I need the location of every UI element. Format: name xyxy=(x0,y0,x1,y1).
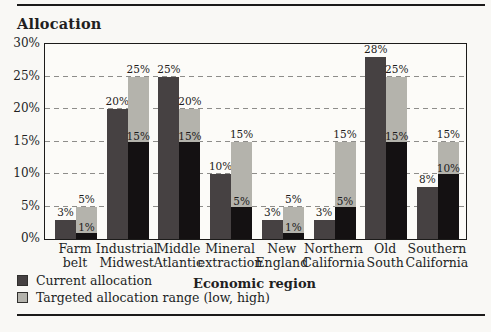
bar-group: 3%5%1% xyxy=(55,44,97,239)
x-tick-label-text: Mineralextraction xyxy=(198,242,263,269)
y-tick-label-0: 0% xyxy=(0,231,40,245)
x-tick-label-text: Farmbelt xyxy=(58,242,91,269)
y-tick-label-30: 30% xyxy=(0,36,40,50)
x-tick-label-text: NorthernCalifornia xyxy=(302,242,365,269)
bar-value-label-low: 15% xyxy=(178,130,201,142)
legend-item-target: Targeted allocation range (low, high) xyxy=(17,291,270,304)
bar-current: 8% xyxy=(417,187,438,239)
x-tick-label-text: SouthernCalifornia xyxy=(406,242,469,269)
current-allocation-swatch xyxy=(17,275,28,286)
x-tick-label-text: IndustrialMidwest xyxy=(96,242,158,269)
bar-target-range: 25%15% xyxy=(128,77,149,240)
bar-target-range: 5%1% xyxy=(76,207,97,239)
y-tick-label-15: 15% xyxy=(0,134,40,148)
bar-value-label-low: 5% xyxy=(337,195,354,207)
bar-value-label-high: 25% xyxy=(385,63,408,75)
bar-value-label-low: 5% xyxy=(233,195,250,207)
bar-current: 3% xyxy=(55,220,76,240)
bar-target-range: 20%15% xyxy=(179,109,200,239)
legend-label-target: Targeted allocation range (low, high) xyxy=(36,291,270,304)
bar-group: 3%15%5% xyxy=(314,44,356,239)
legend-label-current: Current allocation xyxy=(36,274,152,287)
bar-value-label-low: 15% xyxy=(127,130,150,142)
bar-value-label-high: 15% xyxy=(437,128,460,140)
x-tick-label: SouthernCalifornia xyxy=(416,242,458,270)
bar-target-range: 15%5% xyxy=(335,142,356,240)
bar-value-label-high: 5% xyxy=(78,193,95,205)
bottom-rule xyxy=(17,314,485,316)
x-tick-label: IndustrialMidwest xyxy=(106,242,148,270)
x-tick-label-text: NewEngland xyxy=(255,242,308,269)
bar-current: 25% xyxy=(158,77,179,240)
bar-value-label-high: 20% xyxy=(178,95,201,107)
y-tick-label-10: 10% xyxy=(0,166,40,180)
bar-group: 3%5%1% xyxy=(262,44,304,239)
legend: Current allocation Targeted allocation r… xyxy=(17,274,270,304)
y-tick-label-20: 20% xyxy=(0,101,40,115)
bar-group: 10%15%5% xyxy=(210,44,252,239)
top-rule xyxy=(17,4,485,6)
bar-value-label-current: 10% xyxy=(209,160,232,172)
x-tick-label: MiddleAtlantic xyxy=(157,242,199,270)
target-range-swatch xyxy=(17,292,28,303)
chart-title: Allocation xyxy=(17,15,102,32)
bar-target-range: 15%5% xyxy=(231,142,252,240)
x-axis-labels: FarmbeltIndustrialMidwestMiddleAtlanticM… xyxy=(44,242,465,270)
x-tick-label-text: MiddleAtlantic xyxy=(154,242,203,269)
bar-value-label-high: 5% xyxy=(285,193,302,205)
bar-value-label-high: 25% xyxy=(127,63,150,75)
y-tick-label-5: 5% xyxy=(0,199,40,213)
allocation-chart-panel: Allocation 3%5%1%20%25%15%25%20%15%10%15… xyxy=(0,0,491,332)
bar-target-low-fill xyxy=(283,233,304,239)
x-tick-label-text: OldSouth xyxy=(367,242,404,269)
x-tick-label: NorthernCalifornia xyxy=(313,242,355,270)
x-tick-label: Mineralextraction xyxy=(209,242,251,270)
bar-group: 8%15%10% xyxy=(417,44,459,239)
bar-target-low-fill xyxy=(438,174,459,239)
bar-value-label-current: 28% xyxy=(364,43,387,55)
bars-layer: 3%5%1%20%25%15%25%20%15%10%15%5%3%5%1%3%… xyxy=(45,44,466,239)
bar-value-label-current: 25% xyxy=(157,63,180,75)
x-tick-label: Farmbelt xyxy=(54,242,96,270)
y-tick-label-25: 25% xyxy=(0,69,40,83)
bar-value-label-low: 10% xyxy=(437,162,460,174)
bar-target-low-fill xyxy=(386,142,407,240)
bar-value-label-high: 15% xyxy=(333,128,356,140)
bar-target-range: 15%10% xyxy=(438,142,459,240)
x-tick-label: OldSouth xyxy=(364,242,406,270)
bar-value-label-current: 3% xyxy=(316,206,333,218)
bar-target-range: 5%1% xyxy=(283,207,304,239)
bar-target-low-fill xyxy=(335,207,356,239)
bar-value-label-low: 1% xyxy=(285,221,302,233)
bar-group: 25%20%15% xyxy=(158,44,200,239)
bar-value-label-current: 8% xyxy=(419,173,436,185)
bar-target-low-fill xyxy=(76,233,97,239)
bar-group: 20%25%15% xyxy=(107,44,149,239)
bar-target-range: 25%15% xyxy=(386,77,407,240)
plot-area: 3%5%1%20%25%15%25%20%15%10%15%5%3%5%1%3%… xyxy=(44,43,467,240)
bar-target-low-fill xyxy=(128,142,149,240)
legend-item-current: Current allocation xyxy=(17,274,270,287)
bar-value-label-low: 1% xyxy=(78,221,95,233)
bar-value-label-current: 3% xyxy=(57,206,74,218)
bar-target-low-fill xyxy=(179,142,200,239)
bar-group: 28%25%15% xyxy=(365,44,407,239)
bar-current: 10% xyxy=(210,174,231,239)
x-tick-label: NewEngland xyxy=(261,242,303,270)
bar-current: 20% xyxy=(107,109,128,239)
bar-current: 28% xyxy=(365,57,386,239)
bar-value-label-high: 15% xyxy=(230,128,253,140)
bar-value-label-current: 3% xyxy=(264,206,281,218)
bar-current: 3% xyxy=(314,220,335,240)
bar-value-label-low: 15% xyxy=(385,130,408,142)
bar-value-label-current: 20% xyxy=(106,95,129,107)
bar-current: 3% xyxy=(262,220,283,240)
bar-target-low-fill xyxy=(231,207,252,239)
